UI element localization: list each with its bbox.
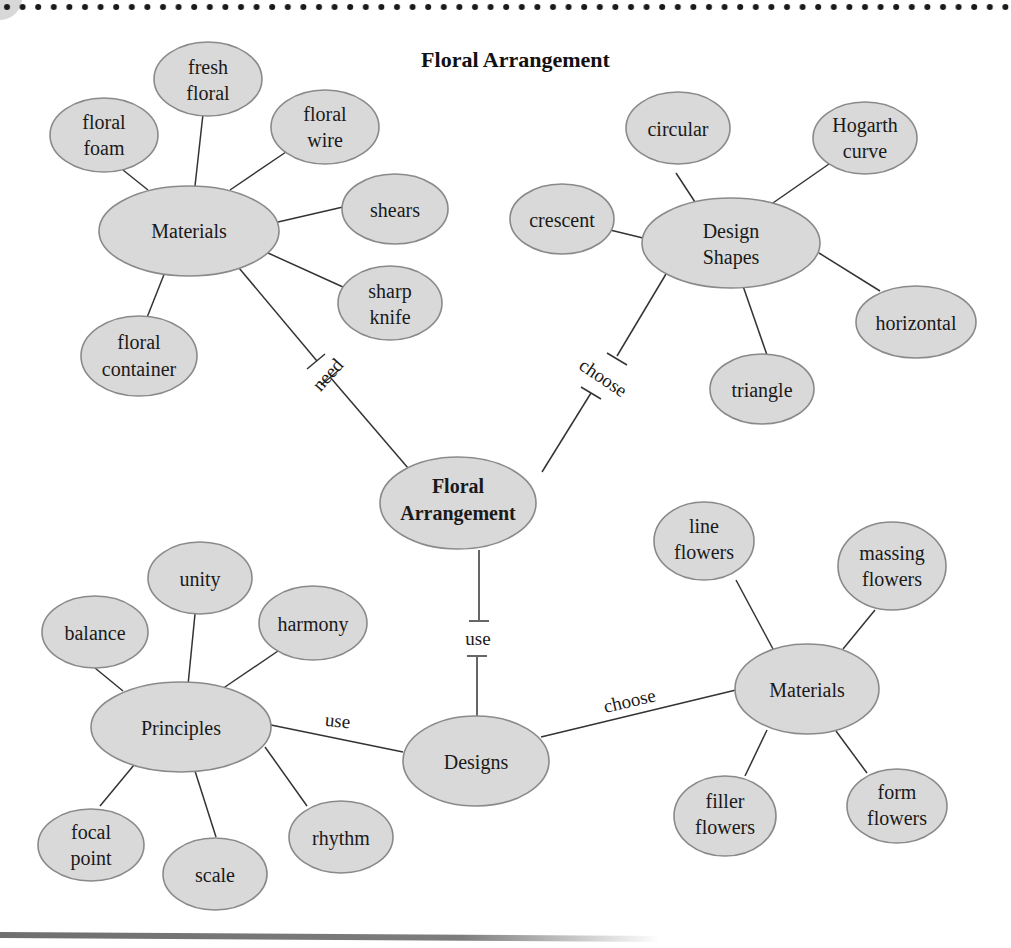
node-principles[interactable]: Principles	[91, 682, 271, 772]
node-line-flowers[interactable]: line flowers	[654, 502, 754, 580]
node-harmony[interactable]: harmony	[259, 586, 367, 660]
node-label: focal	[71, 821, 111, 843]
node-fresh-floral[interactable]: fresh floral	[154, 42, 262, 116]
edge-label-need: need	[308, 354, 348, 395]
node-crescent[interactable]: crescent	[510, 184, 614, 254]
node-label: Designs	[444, 751, 509, 774]
edge-label-use-designs: use	[465, 628, 490, 649]
node-floral-wire[interactable]: floral wire	[271, 90, 379, 164]
node-label: balance	[64, 622, 125, 644]
node-label: Principles	[141, 717, 221, 740]
node-label: floral	[117, 331, 161, 353]
node-designs[interactable]: Designs	[403, 716, 549, 806]
node-materials-bottom[interactable]: Materials	[735, 644, 879, 734]
node-unity[interactable]: unity	[148, 542, 252, 614]
node-label: Hogarth	[832, 114, 898, 137]
node-label: wire	[307, 129, 343, 151]
node-label: knife	[369, 306, 410, 328]
concept-map: need choose use use choose Floral Arrang…	[0, 0, 1011, 948]
node-label: triangle	[731, 379, 792, 402]
node-label: shears	[370, 199, 420, 221]
node-label: massing	[859, 542, 925, 565]
node-scale[interactable]: scale	[163, 838, 267, 910]
edge-label-use-principles: use	[324, 709, 351, 733]
node-horizontal[interactable]: horizontal	[856, 286, 976, 358]
node-label: Arrangement	[400, 502, 516, 525]
node-label: Shapes	[703, 246, 760, 269]
node-circular[interactable]: circular	[626, 92, 730, 164]
node-focal-point[interactable]: focal point	[38, 809, 144, 881]
node-sharp-knife[interactable]: sharp knife	[338, 266, 442, 340]
node-label: Design	[703, 220, 760, 243]
node-label: crescent	[529, 209, 595, 231]
node-massing-flowers[interactable]: massing flowers	[838, 522, 946, 610]
node-label: circular	[647, 118, 708, 140]
node-label: floral	[186, 82, 230, 104]
node-label: Materials	[151, 220, 227, 242]
node-label: flowers	[867, 807, 927, 829]
node-shears[interactable]: shears	[342, 174, 448, 244]
node-floral-arrangement[interactable]: Floral Arrangement	[380, 457, 536, 549]
node-label: point	[70, 847, 112, 870]
node-filler-flowers[interactable]: filler flowers	[674, 776, 776, 856]
node-materials-top[interactable]: Materials	[99, 186, 279, 276]
edge-label-choose-design-shapes: choose	[576, 354, 631, 401]
node-label: flowers	[674, 541, 734, 563]
node-label: unity	[179, 568, 220, 591]
edge-label-choose-materials: choose	[601, 685, 657, 717]
node-label: floral	[82, 111, 126, 133]
node-form-flowers[interactable]: form flowers	[847, 769, 947, 843]
node-hogarth-curve[interactable]: Hogarth curve	[813, 102, 917, 174]
node-label: filler	[706, 790, 745, 812]
node-label: sharp	[368, 280, 411, 303]
node-balance[interactable]: balance	[42, 596, 148, 668]
node-rhythm[interactable]: rhythm	[289, 801, 393, 873]
node-floral-foam[interactable]: floral foam	[50, 98, 158, 172]
node-label: flowers	[695, 816, 755, 838]
node-label: Materials	[769, 679, 845, 701]
node-label: line	[689, 515, 719, 537]
node-label: Floral	[432, 475, 485, 497]
node-label: form	[878, 781, 917, 803]
node-label: fresh	[188, 56, 228, 78]
node-label: horizontal	[875, 312, 957, 334]
node-label: rhythm	[312, 827, 370, 850]
node-design-shapes[interactable]: Design Shapes	[642, 198, 820, 288]
node-floral-container[interactable]: floral container	[81, 316, 197, 396]
node-label: floral	[303, 103, 347, 125]
node-label: flowers	[862, 568, 922, 590]
node-label: scale	[195, 864, 235, 886]
node-triangle[interactable]: triangle	[710, 354, 814, 424]
node-label: curve	[843, 140, 888, 162]
node-label: foam	[83, 137, 125, 159]
node-label: harmony	[277, 613, 348, 636]
node-label: container	[102, 358, 177, 380]
